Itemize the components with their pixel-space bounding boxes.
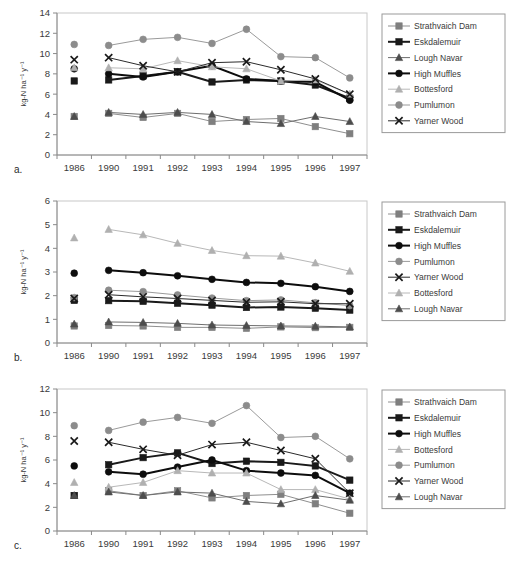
data-point bbox=[71, 479, 78, 486]
data-point bbox=[174, 272, 181, 279]
data-point bbox=[346, 455, 353, 462]
data-point bbox=[312, 433, 319, 440]
legend-label: Lough Navar bbox=[414, 53, 463, 63]
data-point bbox=[277, 66, 284, 73]
y-axis-tick-label: 8 bbox=[45, 68, 50, 79]
data-point bbox=[140, 454, 146, 460]
legend-label: High Muffles bbox=[414, 429, 461, 439]
data-point bbox=[105, 267, 112, 274]
data-point bbox=[209, 40, 216, 47]
panel-c: 0246810121986199019911992199319941995199… bbox=[0, 376, 510, 564]
legend-marker-icon bbox=[396, 70, 403, 77]
x-axis-tick-label: 1993 bbox=[201, 350, 222, 361]
legend-marker-icon bbox=[396, 242, 403, 249]
y-axis-tick-label: 6 bbox=[45, 454, 50, 465]
data-point bbox=[71, 41, 78, 48]
legend-marker-icon bbox=[396, 415, 402, 421]
series-lough-navar bbox=[71, 318, 354, 330]
legend-label: Pumlumon bbox=[414, 100, 455, 110]
panel-letter: b. bbox=[14, 352, 22, 363]
legend-label: High Muffles bbox=[414, 69, 461, 79]
legend-marker-icon bbox=[396, 399, 402, 405]
x-axis-tick-label: 1994 bbox=[236, 538, 257, 549]
x-axis-tick-label: 1997 bbox=[339, 350, 360, 361]
legend-marker-icon bbox=[396, 102, 403, 109]
data-point bbox=[312, 501, 318, 507]
data-point bbox=[71, 270, 78, 277]
data-point bbox=[347, 510, 353, 516]
x-axis-tick-label: 1992 bbox=[167, 162, 188, 173]
y-axis-tick-label: 4 bbox=[45, 478, 50, 489]
panel-letter: a. bbox=[14, 164, 22, 175]
data-point bbox=[312, 463, 318, 469]
data-point bbox=[105, 297, 111, 303]
legend-marker-icon bbox=[396, 23, 402, 29]
data-point bbox=[71, 422, 78, 429]
x-axis-tick-label: 1991 bbox=[133, 538, 154, 549]
legend-label: Lough Navar bbox=[414, 304, 463, 314]
data-point bbox=[71, 437, 78, 444]
x-axis-tick-label: 1996 bbox=[305, 162, 326, 173]
panel-b: 0123456198619901991199219931994199519961… bbox=[0, 188, 510, 376]
data-point bbox=[346, 288, 353, 295]
series-pumlumon bbox=[71, 402, 353, 462]
x-axis-tick-label: 1995 bbox=[270, 538, 291, 549]
y-axis-tick-label: 6 bbox=[45, 89, 50, 100]
legend-label: Yarner Wood bbox=[414, 272, 464, 282]
data-point bbox=[277, 447, 284, 454]
data-point bbox=[105, 77, 111, 83]
data-point bbox=[105, 226, 112, 233]
series-pumlumon bbox=[71, 26, 353, 81]
legend-marker-icon bbox=[396, 258, 403, 265]
y-axis-tick-label: 5 bbox=[45, 219, 50, 230]
data-point bbox=[105, 54, 112, 61]
y-axis-tick-label: 0 bbox=[45, 149, 50, 160]
figure-three-panel-nitrogen-deposition: 0246810121419861990199119921993199419951… bbox=[0, 0, 510, 565]
x-axis-tick-label: 1996 bbox=[305, 538, 326, 549]
data-point bbox=[243, 458, 249, 464]
data-point bbox=[105, 462, 111, 468]
data-point bbox=[209, 457, 216, 464]
x-axis-tick-label: 1986 bbox=[64, 538, 85, 549]
legend-label: Eskdalemuir bbox=[414, 37, 461, 47]
data-point bbox=[140, 36, 147, 43]
y-axis-title: kg-N ha⁻¹ y⁻¹ bbox=[19, 437, 28, 483]
data-point bbox=[312, 123, 318, 129]
series-yarner-wood bbox=[71, 54, 354, 98]
data-point bbox=[209, 118, 215, 124]
legend-marker-icon bbox=[396, 227, 402, 233]
y-axis-title: kg-N ha⁻¹ y⁻¹ bbox=[19, 61, 28, 107]
data-point bbox=[71, 234, 78, 241]
data-point bbox=[312, 472, 319, 479]
data-point bbox=[243, 402, 250, 409]
legend-label: Strathvaich Dam bbox=[414, 21, 477, 31]
data-point bbox=[209, 276, 216, 283]
panel-a: 0246810121419861990199119921993199419951… bbox=[0, 0, 510, 188]
legend-label: Strathvaich Dam bbox=[414, 397, 477, 407]
y-axis-tick-label: 2 bbox=[45, 502, 50, 513]
x-axis-tick-label: 1996 bbox=[305, 350, 326, 361]
data-point bbox=[174, 57, 181, 64]
legend-label: Lough Navar bbox=[414, 492, 463, 502]
x-axis-tick-label: 1997 bbox=[339, 538, 360, 549]
data-point bbox=[105, 70, 112, 77]
y-axis-tick-label: 12 bbox=[39, 28, 50, 39]
y-axis-tick-label: 4 bbox=[45, 109, 50, 120]
y-axis-tick-label: 10 bbox=[39, 48, 50, 59]
y-axis-tick-label: 0 bbox=[45, 337, 50, 348]
data-point bbox=[105, 64, 112, 71]
x-axis-tick-label: 1995 bbox=[270, 350, 291, 361]
y-axis-tick-label: 0 bbox=[45, 525, 50, 536]
x-axis-tick-label: 1991 bbox=[133, 162, 154, 173]
data-point bbox=[243, 76, 250, 83]
legend-label: Pumlumon bbox=[414, 257, 455, 267]
legend-marker-icon bbox=[396, 39, 402, 45]
y-axis-title: kg-N ha⁻¹ y⁻¹ bbox=[19, 249, 28, 295]
series-yarner-wood bbox=[71, 437, 354, 496]
data-point bbox=[105, 427, 112, 434]
data-point bbox=[277, 434, 284, 441]
data-point bbox=[347, 477, 353, 483]
data-point bbox=[140, 471, 147, 478]
data-point bbox=[71, 78, 77, 84]
x-axis-tick-label: 1993 bbox=[201, 538, 222, 549]
